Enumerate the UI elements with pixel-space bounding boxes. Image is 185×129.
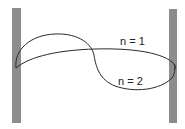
label-n2: n = 2 [118,76,143,87]
label-n1: n = 1 [120,36,145,47]
wave-n2-curve [16,34,175,90]
wave-curves [0,0,185,129]
diagram-canvas: n = 1 n = 2 [0,0,185,129]
wave-n1-curve [16,49,175,70]
